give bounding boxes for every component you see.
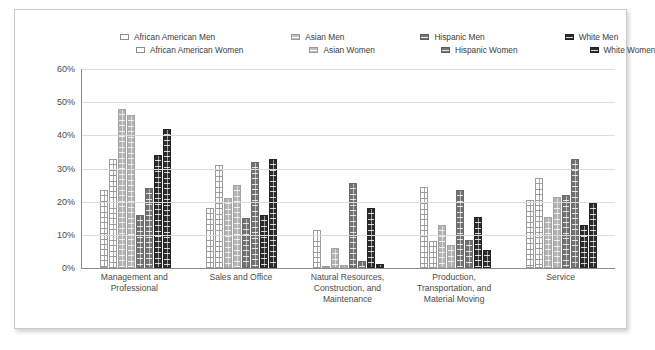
bar [118, 109, 126, 268]
bar [562, 195, 570, 268]
y-tick-label: 40% [57, 130, 75, 140]
x-axis-label: Management andProfessional [81, 272, 188, 305]
x-axis-label: Production,Transportation, andMaterial M… [401, 272, 508, 305]
plot-wrapper: 60%50%40%30%20%10%0% Management andProfe… [15, 10, 626, 328]
y-tick-label: 20% [57, 197, 75, 207]
bar [553, 197, 561, 268]
bar [367, 208, 375, 268]
gridline [82, 69, 615, 70]
bar [215, 165, 223, 268]
bar [544, 217, 552, 268]
y-tick-label: 50% [57, 97, 75, 107]
bar [349, 183, 357, 268]
gridline [82, 102, 615, 103]
y-axis-tick-labels: 60%50%40%30%20%10%0% [33, 10, 75, 328]
gridline [82, 235, 615, 236]
y-tick-label: 0% [62, 263, 75, 273]
bar [340, 265, 348, 268]
bar [206, 208, 214, 268]
bar [136, 215, 144, 268]
bar [474, 217, 482, 268]
bar [145, 188, 153, 268]
x-axis-label: Service [507, 272, 614, 305]
bar [376, 264, 384, 268]
bar [242, 218, 250, 268]
bar [322, 266, 330, 268]
bar [438, 225, 446, 268]
bar [447, 245, 455, 268]
bar [483, 250, 491, 268]
bar [331, 248, 339, 268]
x-axis-label: Sales and Office [188, 272, 295, 305]
bar [429, 241, 437, 268]
bar [163, 129, 171, 268]
gridline [82, 169, 615, 170]
bar [109, 159, 117, 268]
bar [580, 225, 588, 268]
bar [127, 115, 135, 268]
plot-area [81, 69, 615, 269]
bar [465, 240, 473, 268]
x-axis-label: Natural Resources,Construction, andMaint… [294, 272, 401, 305]
chart-frame: African American MenAsian MenHispanic Me… [14, 9, 627, 329]
bar [233, 185, 241, 268]
bar [260, 215, 268, 268]
bar [269, 159, 277, 268]
bar [358, 261, 366, 268]
bar [420, 187, 428, 268]
bar [224, 198, 232, 268]
bar [154, 155, 162, 268]
bar [571, 159, 579, 268]
y-tick-label: 10% [57, 230, 75, 240]
gridline [82, 202, 615, 203]
bar [535, 178, 543, 268]
y-tick-label: 60% [57, 64, 75, 74]
y-tick-label: 30% [57, 164, 75, 174]
bar [251, 162, 259, 268]
x-axis-tick-labels: Management andProfessionalSales and Offi… [81, 272, 614, 305]
gridline [82, 135, 615, 136]
